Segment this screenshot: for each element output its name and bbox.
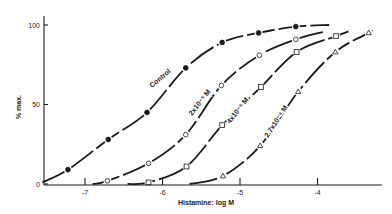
x-tick-label: -6 bbox=[159, 189, 165, 196]
data-point-open-circle bbox=[257, 53, 262, 58]
curve-label: 4x10⁻⁵ M bbox=[225, 96, 249, 125]
curve-label: 2.7x10⁻⁴ M bbox=[263, 104, 289, 139]
x-tick-label: -5 bbox=[237, 189, 243, 196]
data-point-filled-circle bbox=[145, 110, 150, 115]
curve-control bbox=[42, 25, 329, 182]
data-point-open-square bbox=[146, 180, 151, 185]
data-point-filled-circle bbox=[183, 66, 188, 71]
curve-labels: ControlControl2x10⁻⁵ M2x10⁻⁵ M4x10⁻⁵ M4x… bbox=[148, 67, 289, 138]
data-point-open-square bbox=[259, 85, 264, 90]
y-tick-label: 50 bbox=[32, 101, 40, 108]
data-point-open-circle bbox=[183, 132, 188, 137]
curves-group bbox=[42, 25, 372, 184]
x-axis-title: Histamine: log M bbox=[178, 199, 234, 207]
data-point-open-circle bbox=[219, 83, 224, 88]
x-tick-label: -4 bbox=[314, 189, 320, 196]
markers-group bbox=[64, 23, 373, 187]
curve-2x10-5-m bbox=[93, 31, 326, 184]
y-axis-title: % max. bbox=[15, 95, 22, 119]
dose-response-chart: 050100 -7-6-5-4 % max. Histamine: log M … bbox=[0, 0, 392, 214]
data-point-open-square bbox=[334, 34, 339, 39]
y-tick-label: 0 bbox=[36, 181, 40, 188]
data-point-filled-circle bbox=[106, 137, 111, 142]
x-tick-label: -7 bbox=[82, 189, 88, 196]
data-point-filled-circle bbox=[293, 24, 298, 29]
data-point-open-square bbox=[184, 164, 189, 169]
x-axis-ticks: -7-6-5-4 bbox=[82, 178, 321, 196]
data-point-open-square bbox=[220, 123, 225, 128]
data-point-filled-circle bbox=[66, 167, 71, 172]
data-point-filled-circle bbox=[220, 40, 225, 45]
data-point-open-circle bbox=[294, 37, 299, 42]
y-tick-label: 100 bbox=[28, 22, 40, 29]
data-point-open-square bbox=[294, 50, 299, 55]
data-point-open-circle bbox=[105, 179, 110, 184]
curve-label: Control bbox=[148, 67, 172, 88]
y-axis-ticks: 050100 bbox=[28, 22, 48, 188]
data-point-filled-circle bbox=[256, 31, 261, 36]
data-point-open-circle bbox=[146, 161, 151, 166]
